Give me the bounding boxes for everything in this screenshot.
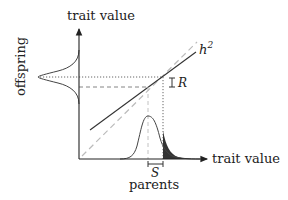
response-label: R [177,76,187,90]
response-bracket [169,78,175,87]
x-axis-label: trait value [212,151,280,166]
heritability-diagram: trait value trait value offspring parent… [0,0,288,200]
offspring-label: offspring [13,37,28,96]
regression-line [90,52,196,130]
identity-line [82,42,197,156]
heritability-label: h2 [199,40,213,57]
selected-parents-area [163,131,196,159]
y-axis-label: trait value [67,8,135,23]
selection-label: S [151,166,159,180]
parents-distribution-curve [120,116,200,159]
